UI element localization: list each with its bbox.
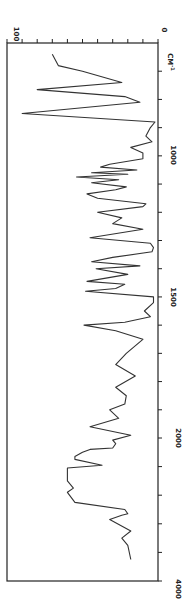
x-tick-label-1500: 1500 <box>169 287 177 307</box>
x-tick-label-4000: 4000 <box>174 579 182 599</box>
spectrum-trace <box>22 54 155 559</box>
x-tick-label-1000: 1000 <box>169 145 177 165</box>
y-max-label: 100 <box>12 27 20 42</box>
ir-spectrum-chart: 100 0 CM-1 1000 1500 2000 4000 <box>0 0 191 602</box>
y-min-label: 0 <box>160 28 168 33</box>
plot-frame <box>7 43 158 581</box>
wavenumber-axis-ticks <box>158 71 162 581</box>
x-tick-label-2000: 2000 <box>174 428 182 448</box>
x-unit-label: CM-1 <box>166 53 176 71</box>
